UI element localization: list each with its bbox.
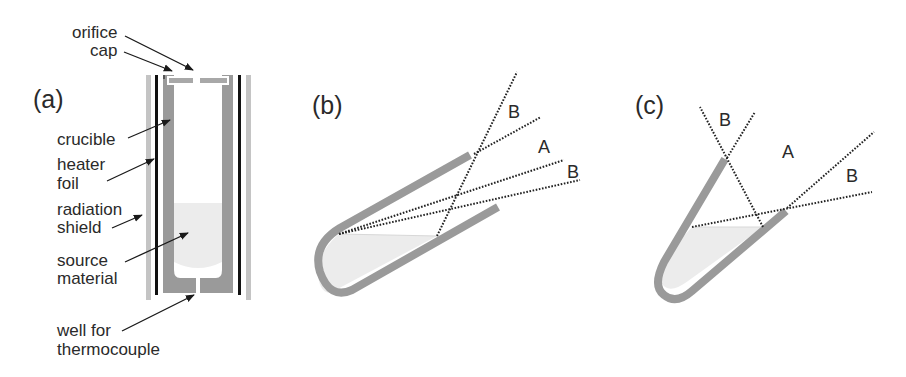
label-heater: heater (57, 155, 106, 174)
label-radiation: radiation (57, 200, 122, 219)
region-b-upper: B (719, 110, 731, 130)
source-fill-b (318, 234, 437, 293)
region-b-lower: B (846, 166, 858, 186)
region-a: A (538, 137, 550, 157)
label-shield: shield (57, 218, 101, 237)
figure-canvas: (a) orifice cap crucible heater foil rad… (0, 0, 906, 377)
panel-b: (b) B A B (312, 72, 580, 293)
heater-foil-right (238, 75, 241, 295)
label-foil: foil (57, 174, 79, 193)
label-orifice: orifice (72, 23, 117, 42)
cap-left (169, 78, 193, 83)
panel-c: (c) B A B (635, 91, 874, 299)
cap-right (200, 78, 227, 83)
panel-c-label: (c) (635, 91, 664, 119)
heater-foil-left (155, 75, 158, 295)
region-a: A (782, 142, 794, 162)
label-thermocouple: thermocouple (57, 340, 160, 359)
label-source: source (57, 251, 108, 270)
panel-a-label: (a) (33, 85, 64, 113)
label-well-for: well for (56, 321, 111, 340)
radiation-shield-right (246, 75, 251, 300)
region-b-upper: B (508, 102, 520, 122)
label-cap: cap (90, 41, 117, 60)
region-b-lower: B (567, 162, 579, 182)
panel-a: (a) orifice cap crucible heater foil rad… (33, 23, 251, 359)
panel-b-label: (b) (312, 91, 343, 119)
label-material: material (57, 269, 117, 288)
radiation-shield-left (146, 75, 151, 300)
label-crucible: crucible (57, 130, 116, 149)
